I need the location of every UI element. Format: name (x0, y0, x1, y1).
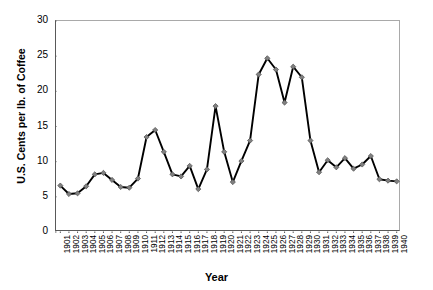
y-tick-label: 5 (22, 191, 48, 201)
x-tick-label: 1939 (391, 235, 400, 269)
x-tick-label: 1910 (141, 235, 150, 269)
x-tick-label: 1934 (348, 235, 357, 269)
x-tick-label: 1902 (72, 235, 81, 269)
x-axis-title: Year (0, 271, 433, 283)
y-tick-label: 25 (22, 50, 48, 60)
plot-area (55, 20, 400, 231)
data-point-marker (222, 149, 227, 154)
x-tick-label: 1926 (279, 235, 288, 269)
coffee-price-chart: U.S. Cents per lb. of Coffee 05101520253… (0, 0, 433, 290)
x-tick-label: 1931 (322, 235, 331, 269)
y-tick-label: 15 (22, 121, 48, 131)
x-tick-label: 1918 (210, 235, 219, 269)
data-point-marker (308, 138, 313, 143)
data-point-marker (170, 172, 175, 177)
x-tick-label: 1901 (63, 235, 72, 269)
y-tick-label: 0 (22, 226, 48, 236)
data-point-marker (239, 158, 244, 163)
x-tick-label: 1912 (158, 235, 167, 269)
x-tick-label: 1915 (184, 235, 193, 269)
x-tick-label: 1933 (339, 235, 348, 269)
x-tick-label: 1904 (89, 235, 98, 269)
y-tick-label: 10 (22, 156, 48, 166)
data-point-marker (394, 179, 399, 184)
y-tick-label: 30 (22, 15, 48, 25)
x-tick-label: 1920 (227, 235, 236, 269)
x-tick-label: 1928 (296, 235, 305, 269)
x-tick-label: 1923 (253, 235, 262, 269)
line-series-svg (55, 20, 402, 233)
data-point-marker (161, 149, 166, 154)
data-line (60, 58, 396, 194)
x-tick-label: 1907 (115, 235, 124, 269)
data-point-marker (213, 104, 218, 109)
x-tick-label: 1940 (400, 235, 409, 269)
x-tick-label: 1909 (132, 235, 141, 269)
x-tick-label: 1917 (201, 235, 210, 269)
x-tick-label: 1936 (365, 235, 374, 269)
data-point-marker (230, 179, 235, 184)
y-tick-label: 20 (22, 85, 48, 95)
data-point-marker (247, 138, 252, 143)
data-point-marker (282, 100, 287, 105)
y-axis-tick-labels: 051015202530 (22, 0, 48, 290)
x-tick-label: 1925 (270, 235, 279, 269)
data-point-marker (377, 177, 382, 182)
data-point-marker (385, 178, 390, 183)
